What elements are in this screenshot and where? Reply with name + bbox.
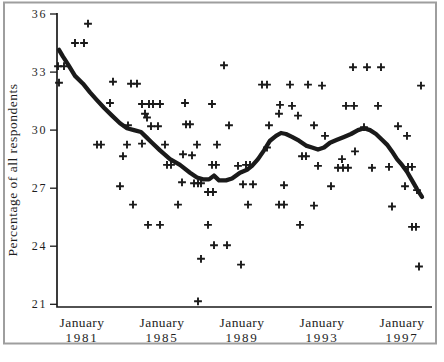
scatter-point [154, 122, 162, 130]
x-tick-year: 1985 [145, 330, 178, 345]
scatter-point [223, 241, 231, 249]
scatter-point [294, 112, 302, 120]
y-tick-label: 24 [32, 239, 47, 253]
scatter-point [208, 100, 216, 108]
scatter-point [327, 182, 335, 190]
scatter-point [351, 148, 359, 156]
scatter-point [310, 202, 318, 210]
scatter-point [239, 180, 247, 188]
scatter-point [344, 164, 352, 172]
figure-frame [4, 3, 436, 344]
scatter-point [179, 150, 187, 158]
scatter-point [350, 102, 358, 110]
scatter-point [363, 63, 371, 71]
scatter-point [161, 141, 169, 149]
x-tick-year: 1993 [305, 330, 338, 345]
scatter-point [194, 297, 202, 305]
scatter-point [415, 263, 423, 271]
scatter-point [302, 152, 310, 160]
x-tick-year: 1989 [225, 330, 258, 345]
scatter-point [385, 163, 393, 171]
scatter-point [338, 155, 346, 163]
scatter-point [276, 101, 284, 109]
scatter-point [188, 151, 196, 159]
scatter-point [213, 141, 221, 149]
scatter-point [388, 203, 396, 211]
scatter-point [129, 201, 137, 209]
scatter-point [156, 221, 164, 229]
x-tick-month: January [220, 315, 265, 330]
scatter-point [374, 102, 382, 110]
scatter-point [84, 20, 92, 28]
scatter-point [244, 201, 252, 209]
scatter-point [263, 81, 271, 89]
y-tick-label: 27 [32, 181, 47, 195]
scatter-point [394, 122, 402, 130]
scatter-point [280, 201, 288, 209]
scatter-point [123, 141, 131, 149]
x-tick-month: January [60, 315, 105, 330]
x-tick-year: 1981 [65, 330, 98, 345]
scatter-point [186, 120, 194, 128]
scatter-point [210, 241, 218, 249]
trend-line [59, 50, 422, 197]
scatter-point [321, 132, 329, 140]
scatter-point [209, 188, 217, 196]
scatter-point [288, 102, 296, 110]
scatter-point [296, 221, 304, 229]
scatter-point [156, 100, 164, 108]
scatter-point [275, 110, 283, 118]
scatter-point [377, 63, 385, 71]
plot-layer: 363330272421January1981January1985Januar… [32, 7, 432, 344]
y-tick-label: 30 [32, 123, 47, 137]
scatter-point [147, 122, 155, 130]
scatter-point [286, 81, 294, 89]
scatter-point [368, 164, 376, 172]
scatter-point [280, 181, 288, 189]
scatter-point [144, 221, 152, 229]
scatter-point [249, 180, 257, 188]
scatter-point [304, 81, 312, 89]
scatter-point [138, 100, 146, 108]
scatter-point [314, 162, 322, 170]
scatter-point [403, 132, 411, 140]
scatter-point [174, 201, 182, 209]
scatter-point [80, 39, 88, 47]
scatter-point [349, 63, 357, 71]
y-axis-title: Percentage of all respondents [5, 83, 20, 256]
scatter-point [116, 182, 124, 190]
scatter-point [193, 141, 201, 149]
scatter-point [133, 80, 141, 88]
scatter-plot: Percentage of all respondents 3633302724… [0, 0, 444, 362]
x-tick-year: 1997 [385, 330, 418, 345]
scatter-point [342, 102, 350, 110]
scatter-point [401, 182, 409, 190]
figure-page: Percentage of all respondents 3633302724… [0, 0, 444, 362]
scatter-point [178, 178, 186, 186]
scatter-point [119, 152, 127, 160]
scatter-point [220, 61, 228, 69]
scatter-point [408, 163, 416, 171]
scatter-point [106, 99, 114, 107]
scatter-point [225, 121, 233, 129]
scatter-point [138, 140, 146, 148]
scatter-point [212, 161, 220, 169]
scatter-point [318, 82, 326, 90]
y-tick-label: 36 [32, 7, 47, 21]
y-tick-label: 21 [32, 297, 47, 311]
scatter-point [417, 82, 425, 90]
scatter-point [310, 121, 318, 129]
x-tick-month: January [140, 315, 185, 330]
x-tick-month: January [300, 315, 345, 330]
scatter-point [234, 162, 242, 170]
scatter-point [204, 221, 212, 229]
scatter-point [197, 255, 205, 263]
scatter-point [149, 100, 157, 108]
scatter-point [237, 261, 245, 269]
axis-lines [57, 13, 432, 307]
y-tick-label: 33 [32, 65, 47, 79]
scatter-point [181, 99, 189, 107]
x-tick-month: January [380, 315, 425, 330]
scatter-point [97, 141, 105, 149]
scatter-point [412, 223, 420, 231]
